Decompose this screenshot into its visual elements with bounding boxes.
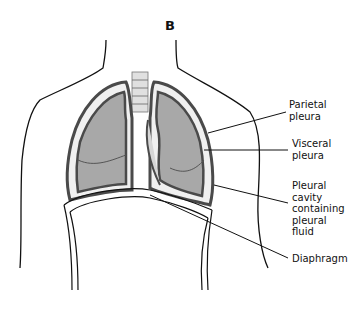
trachea — [132, 72, 148, 112]
leader-cavity — [214, 185, 288, 203]
panel-letter: B — [165, 18, 175, 33]
label-visceral-pleura: Visceral pleura — [292, 138, 331, 161]
leader-diaphragm — [150, 195, 288, 258]
label-parietal-pleura: Parietal pleura — [289, 99, 327, 122]
left-lung — [67, 82, 132, 200]
thorax-diagram: B Parietal pleura Visceral pleura Pleura… — [0, 0, 364, 313]
leader-parietal — [208, 112, 286, 133]
label-pleural-cavity: Pleural cavity containing pleural fluid — [292, 180, 345, 238]
diaphragm — [64, 189, 212, 290]
right-lung — [147, 82, 213, 205]
label-diaphragm: Diaphragm — [292, 253, 348, 265]
